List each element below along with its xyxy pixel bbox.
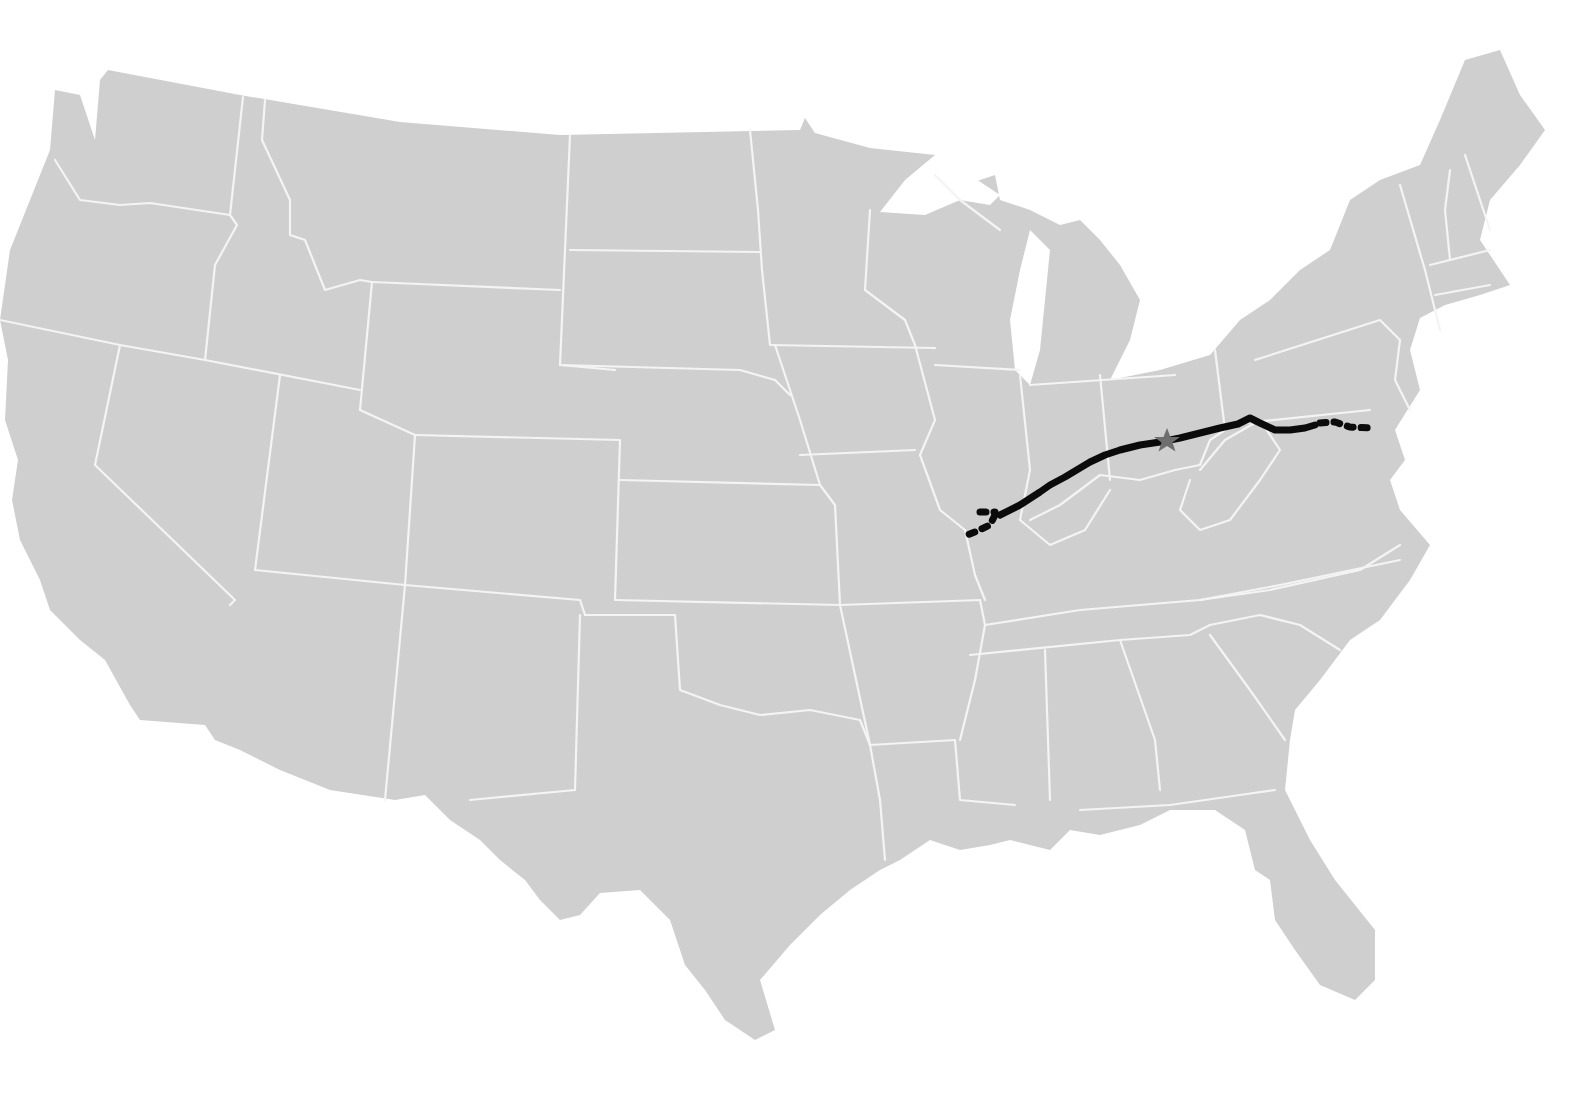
map-container <box>0 0 1593 1099</box>
lake-huron-erie-gap <box>1140 240 1260 330</box>
us-map <box>0 0 1593 1099</box>
